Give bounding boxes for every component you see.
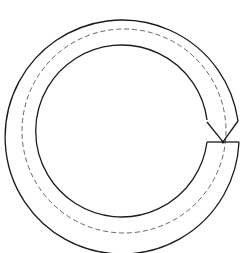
outer-ring-edge (5, 20, 239, 253)
inner-ring-edge (36, 45, 207, 217)
split-ring-diagram (0, 0, 251, 253)
centerline-circle (22, 29, 226, 233)
gap-point-marker (222, 141, 225, 144)
upper-end-bevel (207, 121, 238, 142)
